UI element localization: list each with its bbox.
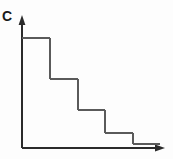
chart-figure: C — [0, 0, 173, 159]
y-axis-arrow-icon — [19, 15, 26, 25]
step-plot-svg — [0, 0, 173, 159]
step-curve-group — [22, 38, 160, 144]
x-axis-arrow-icon — [155, 145, 165, 152]
axes-group — [19, 15, 165, 151]
